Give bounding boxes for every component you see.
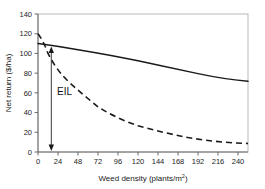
eil-label: EIL (57, 86, 72, 97)
x-tick-label-120: 120 (132, 157, 145, 166)
x-tick-label-240: 240 (232, 157, 245, 166)
x-axis-title-tail: ) (185, 174, 188, 183)
plot-frame (38, 14, 248, 152)
x-axis-tick-labels: 0 24 48 72 96 120 144 168 192 216 240 (36, 157, 244, 166)
net-return-weed-density-chart: 0 20 40 60 80 100 120 140 0 24 48 (0, 0, 265, 189)
x-tick-label-72: 72 (94, 157, 102, 166)
y-axis-title: Net return ($/ha) (4, 53, 13, 112)
x-tick-label-192: 192 (192, 157, 205, 166)
x-axis-title: Weed density (plants/m2) (98, 173, 188, 183)
x-tick-label-24: 24 (54, 157, 62, 166)
y-axis-tick-labels: 0 20 40 60 80 100 120 140 (19, 10, 32, 157)
y-tick-label-40: 40 (24, 108, 32, 117)
x-tick-label-168: 168 (172, 157, 185, 166)
y-tick-label-120: 120 (19, 29, 32, 38)
x-axis-title-main: Weed density (plants/m (98, 174, 182, 183)
x-axis-ticks (38, 152, 238, 156)
y-tick-label-100: 100 (19, 49, 32, 58)
y-tick-label-0: 0 (28, 148, 32, 157)
y-tick-label-20: 20 (24, 128, 32, 137)
x-tick-label-144: 144 (152, 157, 165, 166)
x-tick-label-0: 0 (36, 157, 40, 166)
x-tick-label-48: 48 (74, 157, 82, 166)
y-tick-label-140: 140 (19, 10, 32, 19)
x-tick-label-96: 96 (114, 157, 122, 166)
y-axis-ticks (35, 14, 39, 152)
figure-container: 0 20 40 60 80 100 120 140 0 24 48 (0, 0, 265, 189)
y-tick-label-60: 60 (24, 89, 32, 98)
y-tick-label-80: 80 (24, 69, 32, 78)
x-tick-label-216: 216 (212, 157, 225, 166)
